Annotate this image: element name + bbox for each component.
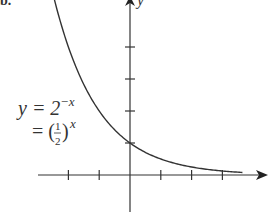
equation-line1-exponent: −x xyxy=(60,94,75,109)
panel-label: b. xyxy=(0,0,11,8)
exponential-decay-curve xyxy=(52,0,242,172)
equation-line2-exponent: x xyxy=(69,116,76,131)
y-axis-label: y xyxy=(135,0,145,9)
fraction-numerator: 1 xyxy=(55,120,61,132)
equation-line1: y = 2 xyxy=(16,97,60,120)
equation-line2-close: ) xyxy=(62,120,69,143)
equation-label: y = 2 −x = ( 1 2 ) x xyxy=(16,94,76,147)
fraction-denominator: 2 xyxy=(55,135,61,147)
equation-line2-open: = ( xyxy=(32,120,55,143)
svg-text:y = 2: y = 2 xyxy=(16,97,60,120)
chart: b. y y = 2 −x = ( 1 2 ) x xyxy=(0,0,274,213)
